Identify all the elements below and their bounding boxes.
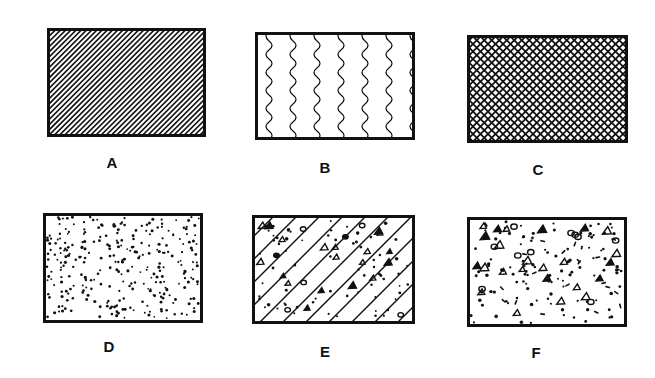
label-c: C — [523, 161, 553, 178]
label-d: D — [94, 338, 124, 355]
pattern-panel-f — [467, 217, 627, 327]
pattern-panel-c — [467, 35, 628, 143]
label-a: A — [97, 154, 127, 171]
pattern-panel-e — [252, 215, 415, 324]
pattern-panel-d — [43, 213, 203, 323]
pattern-panel-a — [47, 28, 206, 137]
label-b: B — [310, 159, 340, 176]
pattern-panel-b — [255, 32, 415, 140]
label-e: E — [310, 343, 340, 360]
label-f: F — [521, 344, 551, 361]
